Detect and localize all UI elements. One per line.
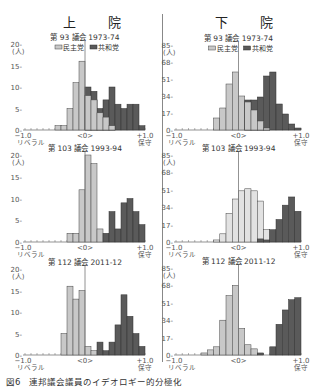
svg-text:51-: 51-	[162, 300, 174, 308]
svg-text:5-: 5-	[15, 217, 22, 225]
svg-text:17-: 17-	[162, 335, 174, 343]
svg-text:リベラル: リベラル	[168, 139, 196, 147]
svg-text:(人): (人)	[163, 49, 176, 57]
svg-text:民主党: 民主党	[63, 43, 84, 52]
svg-text:リベラル: リベラル	[17, 364, 45, 372]
svg-text:<0>: <0>	[77, 132, 93, 140]
svg-text:<0>: <0>	[230, 357, 246, 365]
svg-text:保守: 保守	[294, 138, 308, 147]
svg-text:5-: 5-	[15, 106, 22, 114]
svg-text:第 103 議会 1993-94: 第 103 議会 1993-94	[48, 143, 122, 153]
svg-text:68-: 68-	[162, 59, 174, 67]
svg-text:15-: 15-	[11, 288, 23, 296]
svg-text:共和党: 共和党	[252, 44, 273, 53]
svg-text:17-: 17-	[162, 110, 174, 118]
svg-text:(人): (人)	[163, 272, 176, 280]
svg-text:保守: 保守	[294, 363, 308, 372]
svg-text:保守: 保守	[138, 138, 152, 147]
svg-text:(人): (人)	[12, 273, 25, 281]
svg-text:第 93 議会 1973-74: 第 93 議会 1973-74	[204, 33, 273, 43]
svg-text:第 103 議会 1993-94: 第 103 議会 1993-94	[202, 143, 276, 153]
svg-text:68-: 68-	[162, 169, 174, 177]
svg-text:<0>: <0>	[77, 357, 93, 365]
figure-caption: 図6 連邦議会議員のイデオロギー的分極化	[6, 375, 182, 387]
svg-text:34-: 34-	[162, 317, 174, 325]
svg-text:<0>: <0>	[77, 244, 93, 252]
svg-text:68-: 68-	[162, 282, 174, 290]
svg-text:保守: 保守	[138, 363, 152, 372]
svg-text:34-: 34-	[162, 93, 174, 101]
histogram-panels: 0-5-10-15-20-(人)第 93 議会 1973-74民主党共和党−1.…	[0, 0, 312, 391]
svg-text:リベラル: リベラル	[168, 364, 196, 372]
svg-text:51-: 51-	[162, 76, 174, 84]
svg-text:リベラル: リベラル	[17, 251, 45, 259]
svg-text:保守: 保守	[294, 250, 308, 259]
svg-text:共和党: 共和党	[98, 43, 119, 52]
svg-text:(人): (人)	[163, 159, 176, 167]
svg-text:(人): (人)	[12, 159, 25, 167]
svg-text:第 112 議会 2011-12: 第 112 議会 2011-12	[48, 257, 122, 267]
svg-text:15-: 15-	[11, 63, 23, 71]
svg-text:<0>: <0>	[230, 132, 246, 140]
svg-text:(人): (人)	[12, 48, 25, 56]
svg-text:10-: 10-	[11, 309, 23, 317]
svg-text:51-: 51-	[162, 187, 174, 195]
svg-text:<0>: <0>	[230, 244, 246, 252]
svg-text:リベラル: リベラル	[168, 251, 196, 259]
svg-text:5-: 5-	[15, 331, 22, 339]
svg-text:10-: 10-	[11, 196, 23, 204]
svg-text:保守: 保守	[138, 250, 152, 259]
svg-text:第 93 議会 1973-74: 第 93 議会 1973-74	[50, 32, 119, 42]
svg-text:15-: 15-	[11, 174, 23, 182]
svg-text:第 112 議会 2011-12: 第 112 議会 2011-12	[202, 256, 276, 266]
svg-text:17-: 17-	[162, 222, 174, 230]
svg-text:民主党: 民主党	[217, 44, 238, 53]
svg-text:10-: 10-	[11, 84, 23, 92]
svg-text:リベラル: リベラル	[17, 139, 45, 147]
svg-text:34-: 34-	[162, 204, 174, 212]
